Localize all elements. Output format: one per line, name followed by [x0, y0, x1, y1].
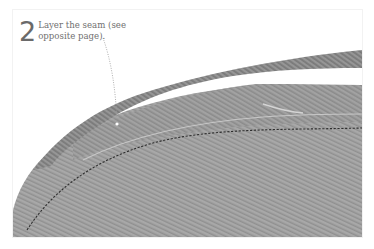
step-number: 2: [19, 20, 35, 44]
gap: [218, 74, 362, 85]
fabric-illustration: [13, 10, 362, 237]
step-caption: Layer the seam (see opposite page).: [38, 20, 132, 41]
fabric-photo: 2 Layer the seam (see opposite page).: [13, 10, 362, 237]
leader-dot: [115, 122, 118, 125]
step-annotation: 2 Layer the seam (see opposite page).: [19, 20, 132, 44]
